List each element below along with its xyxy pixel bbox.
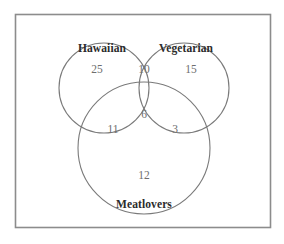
region-count-hawaiian-meatlovers: 11 — [107, 123, 118, 135]
set-circle-hawaiian — [59, 43, 149, 133]
region-count-meatlovers-only: 12 — [138, 169, 150, 181]
region-count-vegetarian-only: 15 — [185, 63, 197, 75]
set-label-hawaiian: Hawaiian — [78, 42, 127, 54]
venn-diagram-figure: Hawaiian Vegetarian Meatlovers 25 10 15 … — [0, 0, 284, 244]
region-count-hawaiian-vegetarian: 10 — [138, 63, 150, 75]
set-circle-vegetarian — [139, 43, 229, 133]
region-count-hawaiian-only: 25 — [91, 63, 103, 75]
set-label-meatlovers: Meatlovers — [116, 198, 172, 210]
region-count-all-three: 6 — [141, 108, 147, 120]
region-count-vegetarian-meatlovers: 3 — [172, 123, 178, 135]
venn-diagram-canvas: Hawaiian Vegetarian Meatlovers 25 10 15 … — [0, 0, 284, 244]
set-label-vegetarian: Vegetarian — [159, 42, 214, 55]
universe-rectangle — [16, 15, 271, 228]
set-circle-meatlovers — [78, 82, 210, 214]
